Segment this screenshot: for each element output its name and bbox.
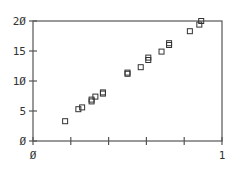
data-point-marker <box>159 49 164 54</box>
scatter-chart: Ø 5 1Ø 15 2Ø Ø 1 <box>0 0 236 171</box>
data-point-marker <box>138 65 143 70</box>
data-point-marker <box>187 29 192 34</box>
y-tick-label-20: 2Ø <box>13 15 27 28</box>
plot-frame <box>33 21 222 141</box>
y-tick-label-5: 5 <box>19 105 26 118</box>
axis-ticks <box>29 21 222 145</box>
data-points <box>63 19 204 124</box>
data-point-marker <box>89 99 94 104</box>
x-tick-label-1: 1 <box>219 149 226 162</box>
data-point-marker <box>63 119 68 124</box>
data-point-marker <box>197 22 202 27</box>
y-tick-label-0: Ø <box>19 135 26 148</box>
tick-labels: Ø 5 1Ø 15 2Ø Ø 1 <box>13 15 226 162</box>
y-tick-label-10: 1Ø <box>13 75 27 88</box>
y-tick-label-15: 15 <box>13 45 26 58</box>
data-point-marker <box>167 43 172 48</box>
plot-border <box>33 21 222 141</box>
data-point-marker <box>167 41 172 46</box>
x-tick-label-0: Ø <box>30 149 37 162</box>
